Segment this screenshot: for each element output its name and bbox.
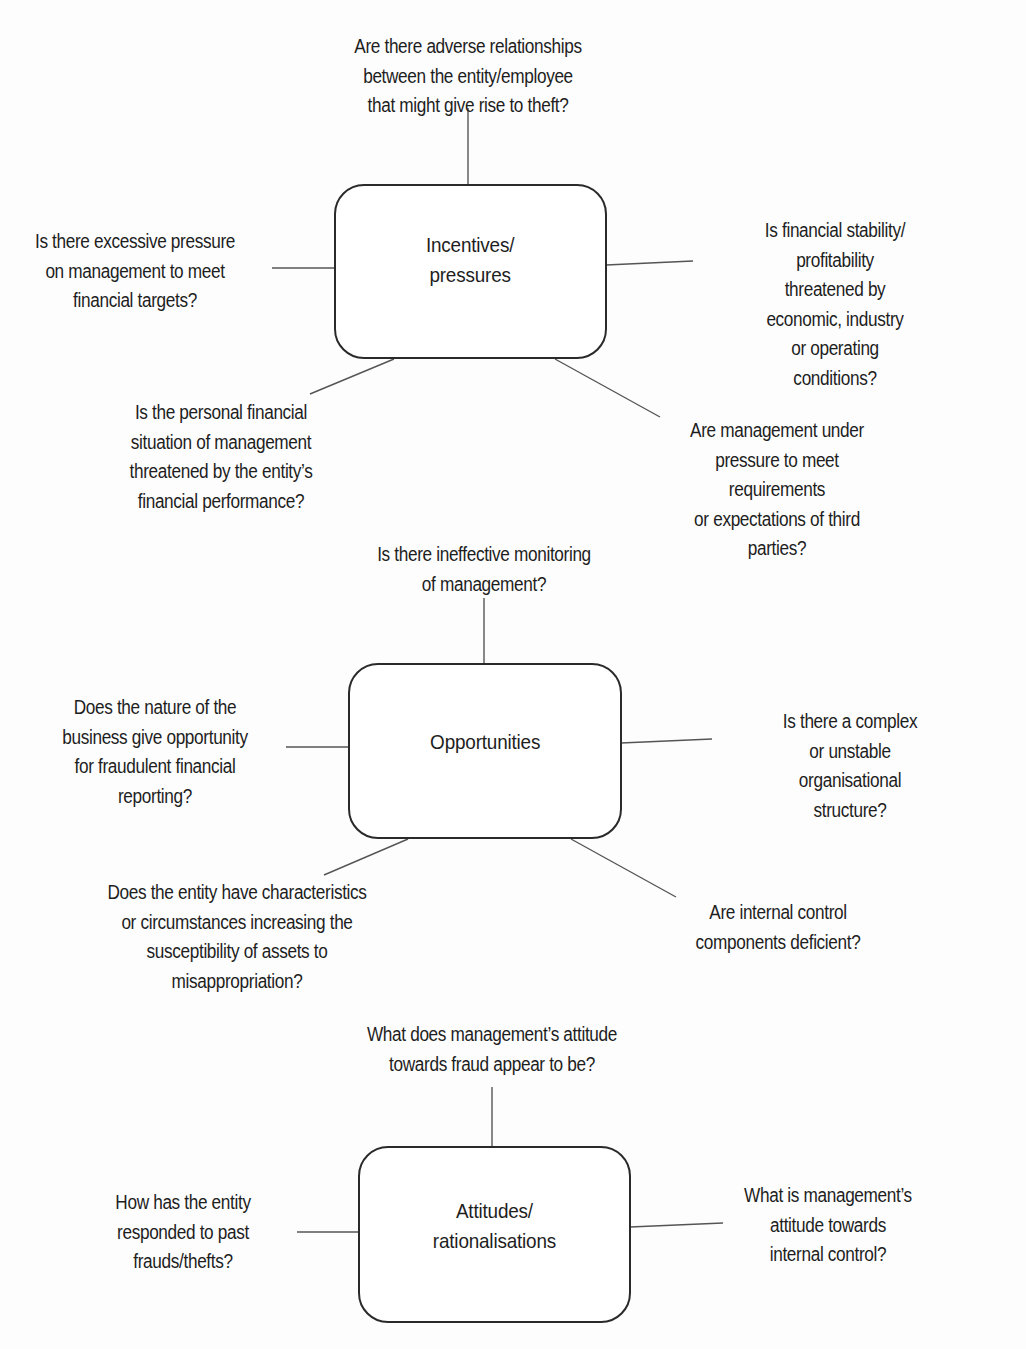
incentives-question-top: Are there adverse relationships between … xyxy=(354,32,581,121)
opportunities-question-right: Is there a complex or unstable organisat… xyxy=(774,707,925,825)
opportunities-question-left: Does the nature of the business give opp… xyxy=(62,693,248,811)
incentives-question-bottom-left: Is the personal financial situation of m… xyxy=(130,398,313,516)
incentives-question-left: Is there excessive pressure on managemen… xyxy=(35,227,235,316)
incentives-question-bottom-right: Are management under pressure to meet re… xyxy=(670,416,884,564)
incentives-question-right: Is financial stability/ profitability th… xyxy=(753,216,917,393)
opportunities-question-bottom-right: Are internal control components deficien… xyxy=(696,898,861,957)
attitudes-question-right: What is management’s attitude towards in… xyxy=(744,1181,912,1270)
fraud-risk-diagram: Incentives/ pressures Are there adverse … xyxy=(0,0,1026,1349)
connector-incentives-right xyxy=(606,261,693,265)
attitudes-question-top: What does management’s attitude towards … xyxy=(367,1020,617,1079)
connector-opportunities-right xyxy=(621,739,712,743)
opportunities-question-bottom-left: Does the entity have characteristics or … xyxy=(107,878,366,996)
attitudes-question-left: How has the entity responded to past fra… xyxy=(115,1188,250,1277)
opportunities-question-top: Is there ineffective monitoring of manag… xyxy=(377,540,591,599)
connector-attitudes-right xyxy=(630,1223,723,1227)
connector-opportunities-bottom-right xyxy=(571,839,676,897)
attitudes-rationalisations-box: Attitudes/ rationalisations xyxy=(358,1146,631,1323)
connector-incentives-bottom-left xyxy=(310,359,394,394)
opportunities-label: Opportunities xyxy=(430,727,540,837)
incentives-pressures-box: Incentives/ pressures xyxy=(334,184,607,359)
opportunities-box: Opportunities xyxy=(348,663,622,839)
connector-opportunities-bottom-left xyxy=(324,839,408,875)
attitudes-rationalisations-label: Attitudes/ rationalisations xyxy=(433,1196,556,1321)
connector-incentives-bottom-right xyxy=(555,359,660,417)
incentives-pressures-label: Incentives/ pressures xyxy=(426,230,514,357)
